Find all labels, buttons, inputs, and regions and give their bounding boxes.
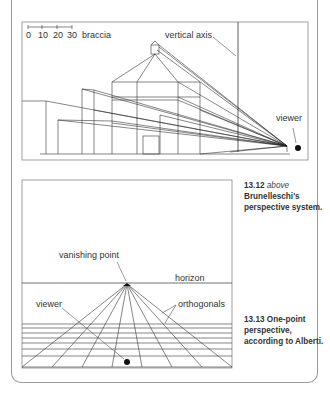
viewer-dot-bottom bbox=[124, 359, 130, 365]
label-horizon: horizon bbox=[175, 274, 205, 283]
caption-number: 13.12 bbox=[244, 181, 265, 190]
sight-lines bbox=[46, 45, 296, 154]
scale-tick-10: 10 bbox=[38, 31, 48, 40]
label-viewer-bottom: viewer bbox=[36, 300, 62, 309]
label-vertical-axis: vertical axis bbox=[165, 31, 212, 40]
caption-13-13: 13.13 One-point perspective, according t… bbox=[244, 314, 324, 347]
label-viewer-top: viewer bbox=[276, 114, 302, 123]
label-orthogonals: orthogonals bbox=[178, 300, 225, 309]
scale-tick-20: 20 bbox=[53, 31, 63, 40]
caption-13-12: 13.12 above Brunelleschi's perspective s… bbox=[244, 180, 324, 213]
caption-text: Brunelleschi's perspective system. bbox=[244, 192, 322, 212]
scale-tick-30: 30 bbox=[67, 31, 77, 40]
caption-position: above bbox=[267, 181, 289, 190]
label-vanishing-point: vanishing point bbox=[59, 251, 119, 260]
brunelleschi-diagram bbox=[22, 22, 308, 160]
scale-tick-0: 0 bbox=[26, 31, 31, 40]
scale-unit: braccia bbox=[82, 31, 111, 40]
viewer-dot-top bbox=[295, 145, 301, 151]
caption-number: 13.13 bbox=[244, 315, 265, 324]
